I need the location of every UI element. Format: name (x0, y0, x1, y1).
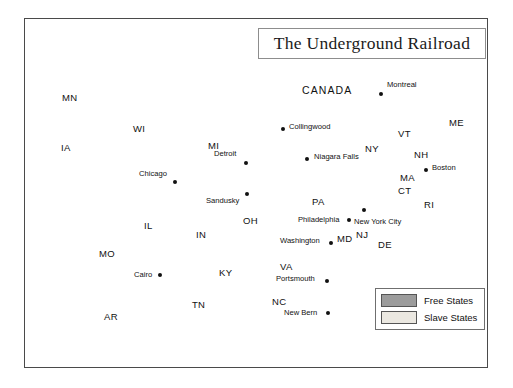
legend-item-slave-states: Slave States (381, 310, 479, 325)
city-marker-new-york-city (362, 208, 366, 212)
legend-label-free: Free States (424, 295, 473, 306)
city-marker-cairo (158, 273, 162, 277)
city-marker-new-bern (326, 311, 330, 315)
city-marker-montreal (379, 92, 383, 96)
legend-swatch-slave (381, 311, 417, 324)
legend-label-slave: Slave States (424, 312, 477, 323)
city-marker-sandusky (245, 192, 249, 196)
legend-item-free-states: Free States (381, 293, 479, 308)
map-title-box: The Underground Railroad (258, 28, 486, 59)
city-marker-detroit (244, 161, 248, 165)
city-marker-philadelphia (347, 218, 351, 222)
underground-railroad-map: The Underground Railroad Free States Sla… (0, 0, 513, 388)
legend-swatch-free (381, 294, 417, 307)
map-legend: Free States Slave States (375, 288, 485, 330)
city-marker-collingwood (281, 127, 285, 131)
city-marker-niagara-falls (305, 157, 309, 161)
city-marker-boston (424, 168, 428, 172)
city-marker-washington (329, 241, 333, 245)
page-title: The Underground Railroad (274, 33, 470, 54)
city-marker-portsmouth (325, 279, 329, 283)
city-marker-chicago (173, 180, 177, 184)
